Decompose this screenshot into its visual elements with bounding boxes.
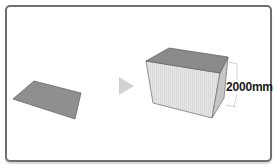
flat-rectangle-face bbox=[13, 81, 81, 119]
dimension-label: 2000mm bbox=[226, 80, 273, 94]
extruded-box bbox=[146, 48, 228, 118]
right-triangle-arrow-icon bbox=[119, 77, 134, 95]
